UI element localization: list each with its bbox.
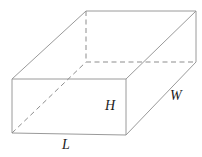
prism-figure-canvas: H L W — [0, 0, 202, 157]
solid-edges-group — [12, 11, 196, 135]
width-label: W — [170, 89, 182, 103]
height-label: H — [105, 99, 115, 113]
rectangular-prism-drawing — [0, 0, 202, 157]
edge-connect-top-right — [126, 11, 196, 79]
length-label: L — [62, 138, 70, 152]
edge-front-bottom — [12, 133, 126, 135]
hidden-edges-group — [12, 11, 196, 133]
edge-connect-bottom-right — [126, 62, 196, 135]
edge-connect-bottom-left-dashed — [12, 62, 86, 133]
edge-connect-top-left — [12, 11, 86, 79]
